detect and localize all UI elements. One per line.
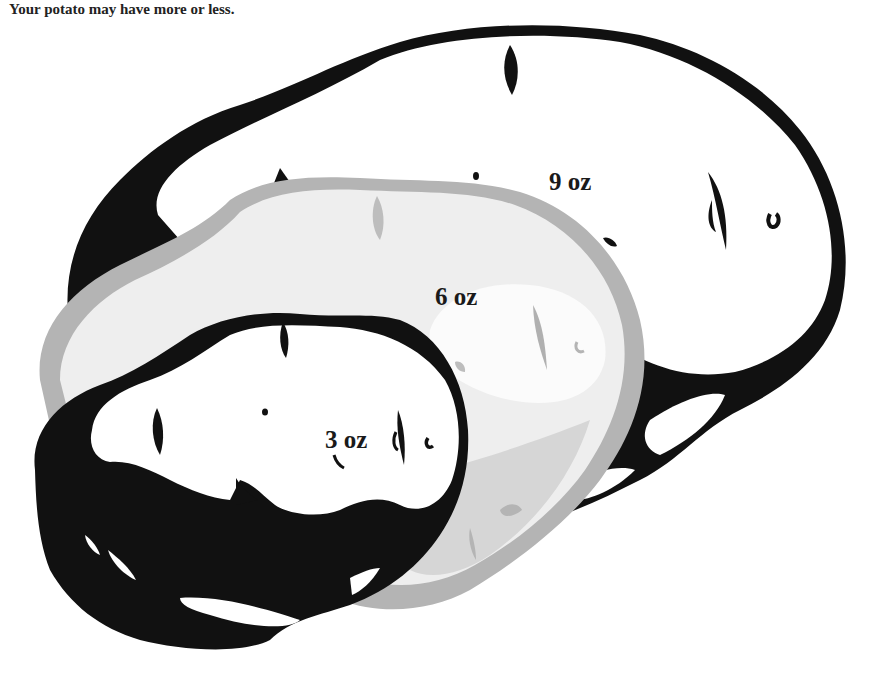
label-3oz: 3 oz: [325, 426, 367, 454]
potato-illustration: [0, 0, 878, 675]
label-6oz: 6 oz: [435, 283, 477, 311]
large-potato-eye-dot: [473, 172, 479, 180]
small-potato-eye-dot: [262, 409, 268, 416]
label-9oz: 9 oz: [549, 168, 591, 196]
